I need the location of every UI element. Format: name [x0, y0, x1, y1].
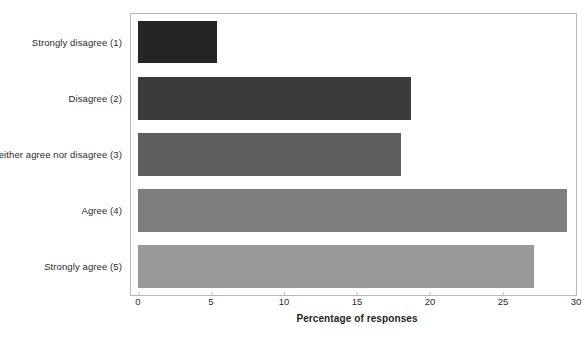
x-axis-tick-mark: [211, 292, 212, 296]
y-axis-label: Strongly agree (5): [0, 239, 126, 295]
y-axis-category-labels: Strongly disagree (1)Disagree (2)Neither…: [0, 14, 126, 295]
bar: [138, 245, 534, 288]
bar-row: [138, 70, 576, 126]
bar: [138, 77, 411, 120]
x-axis-tick-mark: [138, 292, 139, 296]
bar: [138, 133, 401, 176]
x-axis-tick-mark: [284, 292, 285, 296]
x-axis-tick-mark: [430, 292, 431, 296]
x-axis-tick-label: 15: [352, 296, 363, 307]
y-axis-label: Agree (4): [0, 183, 126, 239]
x-axis-tick-mark: [503, 292, 504, 296]
y-axis-label-text: Strongly disagree (1): [32, 37, 122, 48]
x-axis-tick-label: 0: [135, 296, 140, 307]
x-axis-tick-label: 20: [425, 296, 436, 307]
bar-row: [138, 14, 576, 70]
bar-row: [138, 126, 576, 182]
x-axis-title: Percentage of responses: [138, 313, 576, 324]
chart-title: [0, 0, 585, 7]
x-axis-ticks: 051015202530: [0, 296, 585, 312]
bar-chart: Strongly disagree (1)Disagree (2)Neither…: [0, 0, 585, 338]
bar: [138, 21, 217, 64]
y-axis-label-text: Disagree (2): [69, 93, 122, 104]
y-axis-label: Strongly disagree (1): [0, 14, 126, 70]
y-axis-label-text: Agree (4): [81, 205, 122, 216]
x-axis-tick-mark: [576, 292, 577, 296]
x-axis-tick-label: 10: [279, 296, 290, 307]
y-axis-label-text: Strongly agree (5): [44, 261, 122, 272]
y-axis-label-text: Neither agree nor disagree (3): [0, 149, 122, 160]
x-axis-tick-label: 5: [208, 296, 213, 307]
bar-row: [138, 239, 576, 295]
bar: [138, 189, 567, 232]
plot-area: [138, 14, 576, 295]
x-axis-tick-mark: [357, 292, 358, 296]
x-axis-tick-label: 25: [498, 296, 509, 307]
y-axis-label: Neither agree nor disagree (3): [0, 126, 126, 182]
bar-row: [138, 183, 576, 239]
y-axis-label: Disagree (2): [0, 70, 126, 126]
x-axis-tick-label: 30: [571, 296, 582, 307]
